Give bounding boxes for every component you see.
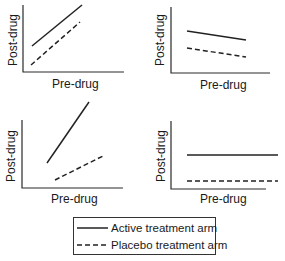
legend: Active treatment arm Placebo treatment a… [74, 218, 228, 255]
panel-top-right: Pre-drug Post-drug [153, 7, 270, 92]
x-axis-label: Pre-drug [52, 77, 99, 91]
active-line [47, 102, 89, 163]
y-axis-label: Post-drug [153, 14, 167, 66]
axes [171, 7, 270, 73]
placebo-line [55, 156, 103, 180]
axes [22, 120, 123, 188]
x-axis-label: Pre-drug [200, 78, 247, 92]
y-axis-label: Post-drug [6, 14, 20, 66]
active-line [32, 5, 82, 46]
active-line [187, 31, 246, 40]
panel-bottom-left: Pre-drug Post-drug [4, 102, 123, 206]
axes [23, 5, 124, 72]
y-axis-label: Post-drug [154, 130, 168, 182]
placebo-line [187, 48, 246, 57]
placebo-line [31, 22, 80, 65]
legend-active-label: Active treatment arm [111, 222, 217, 234]
y-axis-label: Post-drug [4, 130, 18, 182]
panel-bottom-right: Pre-drug Post-drug [154, 121, 278, 206]
legend-placebo-label: Placebo treatment arm [111, 239, 227, 251]
x-axis-label: Pre-drug [51, 192, 98, 206]
figure: Pre-drug Post-drug Pre-drug Post-drug Pr… [0, 0, 285, 261]
x-axis-label: Pre-drug [200, 192, 247, 206]
panel-top-left: Pre-drug Post-drug [6, 5, 124, 91]
